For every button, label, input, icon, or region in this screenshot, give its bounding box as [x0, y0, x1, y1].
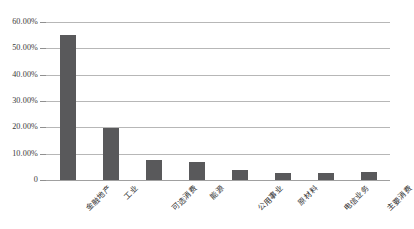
x-axis-category-label: 公用事业 — [256, 184, 285, 213]
x-axis-category-label: 金融地产 — [84, 184, 113, 213]
x-axis-category-label: 能源 — [208, 184, 225, 201]
x-axis-category-label: 电信业务 — [342, 184, 371, 213]
x-axis-category-label: 工业 — [122, 184, 139, 201]
x-axis-category-label: 主要消费 — [385, 184, 414, 213]
x-axis-category-label: 可选消费 — [170, 184, 199, 213]
x-axis-category-label: 原材料 — [297, 184, 320, 207]
